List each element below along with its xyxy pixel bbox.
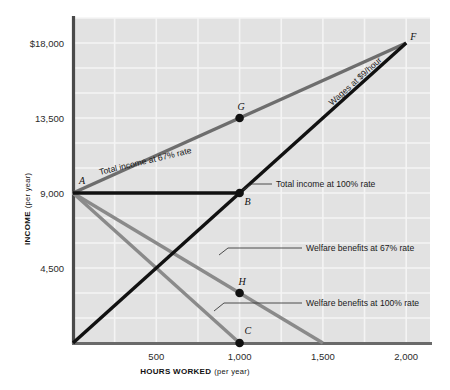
series-label-welfare-100: Welfare benefits at 100% rate: [306, 298, 419, 308]
chart-figure: ABCFGH 4,5009,00013,500$18,000 5001,0001…: [0, 0, 450, 390]
series-label-welfare-67: Welfare benefits at 67% rate: [306, 243, 414, 253]
point-label-A: A: [78, 175, 86, 186]
y-axis-title: INCOME(per year): [23, 172, 32, 245]
x-tick-2000: 2,000: [394, 351, 418, 362]
y-tick-4500: 4,500: [40, 263, 64, 274]
point-label-C: C: [245, 325, 252, 336]
point-label-F: F: [409, 31, 417, 42]
chart-svg: ABCFGH 4,5009,00013,500$18,000 5001,0001…: [0, 0, 450, 390]
svg-text:HOURS WORKED(per year): HOURS WORKED(per year): [140, 367, 250, 376]
point-label-B: B: [245, 196, 251, 207]
svg-text:INCOME(per year): INCOME(per year): [23, 172, 32, 245]
data-point-G: [235, 114, 244, 123]
x-axis-title: HOURS WORKED(per year): [140, 367, 250, 376]
data-point-H: [235, 289, 244, 298]
point-label-H: H: [238, 276, 247, 287]
y-tick-9000: 9,000: [40, 188, 64, 199]
x-tick-1000: 1,000: [228, 351, 252, 362]
x-axis-title-sub: (per year): [214, 367, 250, 376]
data-point-B: [235, 189, 244, 198]
series-label-total-income-100: Total income at 100% rate: [276, 179, 376, 189]
y-tick-18000: $18,000: [30, 38, 64, 49]
x-tick-500: 500: [148, 351, 164, 362]
y-axis-title-main: INCOME: [23, 211, 32, 245]
x-axis-title-main: HOURS WORKED: [140, 367, 211, 376]
y-axis-title-sub: (per year): [23, 172, 32, 208]
data-point-C: [235, 339, 244, 348]
x-tick-1500: 1,500: [311, 351, 335, 362]
y-tick-13500: 13,500: [35, 113, 64, 124]
point-label-G: G: [238, 101, 245, 112]
